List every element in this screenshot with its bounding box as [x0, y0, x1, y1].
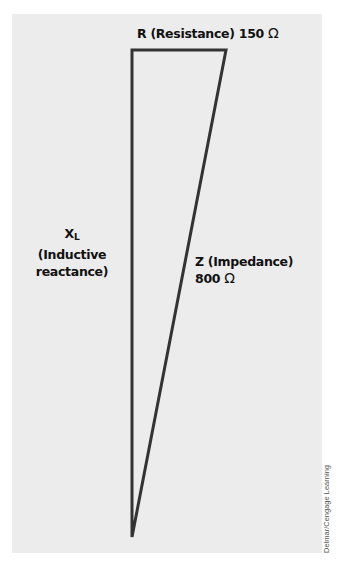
- impedance-value: 800: [195, 271, 220, 286]
- image-credit: Delmar/Cengage Learning: [322, 465, 331, 553]
- reactance-line1: (Inductive: [24, 246, 120, 263]
- reactance-line2: reactance): [24, 263, 120, 280]
- reactance-label: XL (Inductive reactance): [24, 225, 120, 280]
- ohm-symbol: Ω: [268, 25, 278, 41]
- resistance-value: 150: [239, 26, 264, 41]
- resistance-text: R (Resistance): [137, 26, 235, 41]
- reactance-symbol: X: [65, 226, 74, 241]
- impedance-text: Z (Impedance): [195, 253, 293, 270]
- impedance-label: Z (Impedance) 800 Ω: [195, 253, 293, 287]
- resistance-label: R (Resistance) 150 Ω: [137, 25, 278, 42]
- triangle-outline: [132, 50, 226, 537]
- ohm-symbol: Ω: [224, 270, 234, 286]
- reactance-subscript: L: [74, 232, 79, 242]
